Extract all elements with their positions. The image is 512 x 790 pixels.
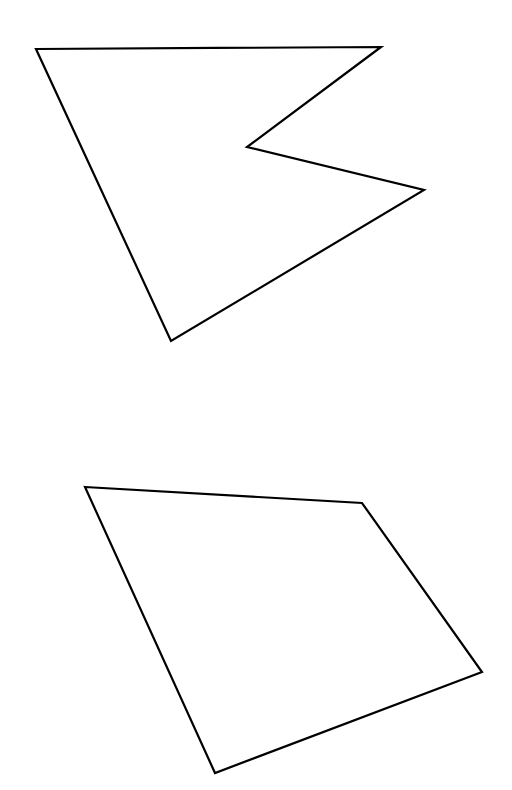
canvas-background [0, 0, 512, 790]
shapes-figure-canvas [0, 0, 512, 790]
